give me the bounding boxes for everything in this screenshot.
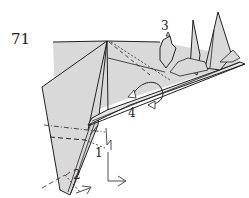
label-4: 4 <box>128 106 136 120</box>
label-1: 1 <box>95 146 103 160</box>
arrow-right <box>108 152 126 186</box>
label-2: 2 <box>73 168 81 182</box>
origami-diagram: 1 2 3 4 <box>0 0 249 198</box>
label-3: 3 <box>161 19 169 33</box>
